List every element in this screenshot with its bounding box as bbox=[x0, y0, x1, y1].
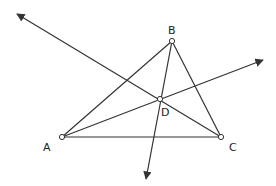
label-a: A bbox=[43, 141, 51, 154]
label-d: D bbox=[161, 106, 169, 119]
ray-from-c-through-d bbox=[17, 14, 221, 137]
segment-ab bbox=[62, 41, 172, 137]
point-d bbox=[157, 96, 162, 101]
point-a bbox=[59, 134, 64, 139]
label-c: C bbox=[229, 141, 237, 154]
point-b bbox=[169, 38, 174, 43]
geometry-diagram: A B C D bbox=[0, 0, 276, 186]
label-b: B bbox=[168, 24, 176, 37]
point-c bbox=[218, 134, 223, 139]
